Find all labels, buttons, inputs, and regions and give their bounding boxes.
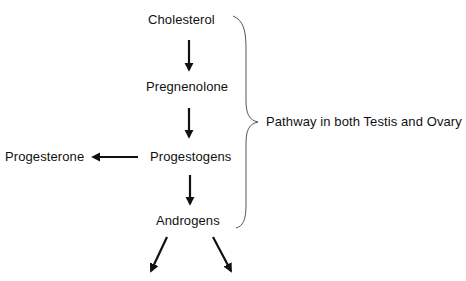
arrow-androgens-down-right (213, 237, 231, 271)
curly-brace-icon (233, 16, 258, 228)
arrow-androgens-down-left (151, 237, 167, 271)
arrows-layer (0, 0, 466, 281)
pathway-diagram: Cholesterol Pregnenolone Progestogens Pr… (0, 0, 466, 281)
